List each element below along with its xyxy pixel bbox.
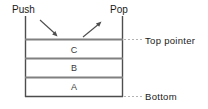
stack-cell-label-c: C xyxy=(64,45,84,55)
top-pointer-label: Top pointer xyxy=(145,36,195,46)
push-label: Push xyxy=(12,5,35,15)
push-arrow-icon xyxy=(40,20,58,37)
stack-diagram: Push Pop Top pointer Bottom C B A xyxy=(0,0,208,109)
bottom-label: Bottom xyxy=(145,92,177,102)
stack-cell-label-b: B xyxy=(64,63,84,73)
stack-cell-label-a: A xyxy=(64,82,84,92)
pop-label: Pop xyxy=(110,5,128,15)
pop-arrow-icon xyxy=(83,22,102,38)
